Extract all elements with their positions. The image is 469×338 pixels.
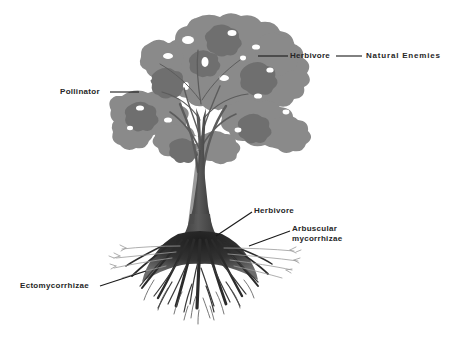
- leader-herbivore-root: [216, 212, 252, 236]
- label-ectomycorrhizae: Ectomycorrhizae: [20, 281, 89, 291]
- tree-mutualist-figure: Herbivore Natural Enemies Pollinator Her…: [0, 0, 469, 338]
- label-pollinator: Pollinator: [60, 87, 100, 97]
- root-system: [109, 231, 301, 324]
- label-herbivore-root: Herbivore: [254, 206, 294, 216]
- label-arbuscular-line2: mycorrhizae: [292, 234, 356, 244]
- label-arbuscular-mycorrhizae: Arbuscular mycorrhizae: [292, 224, 356, 244]
- label-arbuscular-line1: Arbuscular: [292, 224, 356, 234]
- leader-ectomycorrhizae: [100, 271, 146, 286]
- leader-arbuscular: [249, 231, 290, 246]
- label-natural-enemies: Natural Enemies: [366, 51, 441, 61]
- label-herbivore-canopy: Herbivore: [290, 51, 330, 61]
